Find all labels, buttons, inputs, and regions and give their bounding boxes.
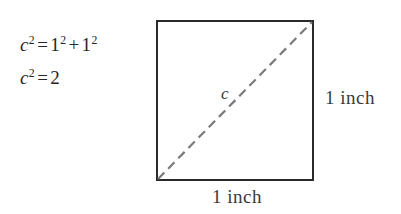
equation-1-plus: + bbox=[66, 34, 81, 55]
unit-square-diagonal-diagram: c2=12+12 c2=2 c 1 inch 1 inch bbox=[0, 0, 401, 214]
equation-pythagorean-expanded: c2=12+12 bbox=[20, 28, 150, 61]
side-label-right: 1 inch bbox=[325, 87, 375, 109]
equation-1-equals: = bbox=[35, 34, 50, 55]
equation-pythagorean-result: c2=2 bbox=[20, 61, 150, 94]
equation-2-equals: = bbox=[35, 67, 50, 88]
equation-1-variable: c bbox=[20, 34, 29, 55]
diagonal-dashed-line bbox=[156, 20, 314, 181]
equation-block: c2=12+12 c2=2 bbox=[20, 28, 150, 94]
hypotenuse-label: c bbox=[221, 84, 229, 104]
equation-2-result: 2 bbox=[50, 67, 60, 88]
side-label-bottom: 1 inch bbox=[212, 186, 262, 208]
diagonal-segment bbox=[158, 22, 312, 179]
equation-1-term2-exponent: 2 bbox=[92, 34, 98, 47]
equation-1-term2-base: 1 bbox=[82, 34, 92, 55]
equation-2-variable: c bbox=[20, 67, 29, 88]
equation-1-term1-base: 1 bbox=[50, 34, 60, 55]
